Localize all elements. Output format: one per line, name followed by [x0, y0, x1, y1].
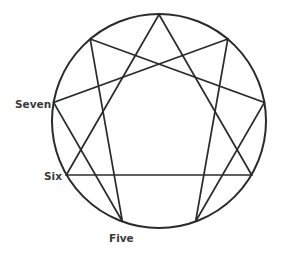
label-seven: Seven	[15, 98, 51, 110]
enneagram-diagram: Seven Six Five	[0, 0, 282, 255]
enneagram-hexad	[54, 39, 265, 222]
label-five: Five	[109, 232, 134, 244]
label-six: Six	[44, 170, 62, 182]
enneagram-circle	[52, 14, 266, 228]
enneagram-triangle	[66, 15, 251, 176]
